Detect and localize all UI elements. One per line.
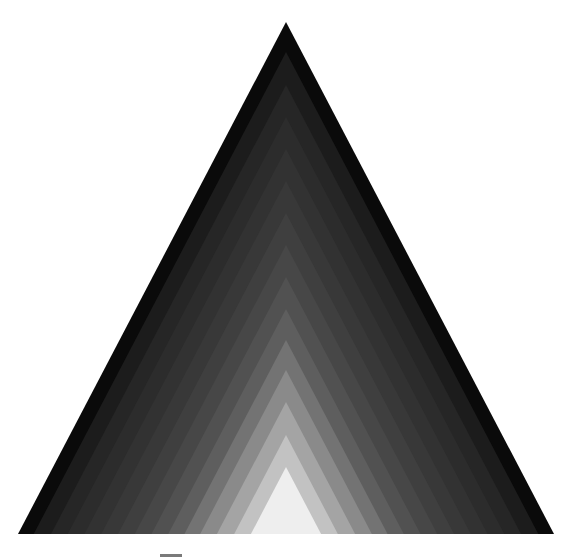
nested-triangle-figure — [0, 0, 571, 557]
